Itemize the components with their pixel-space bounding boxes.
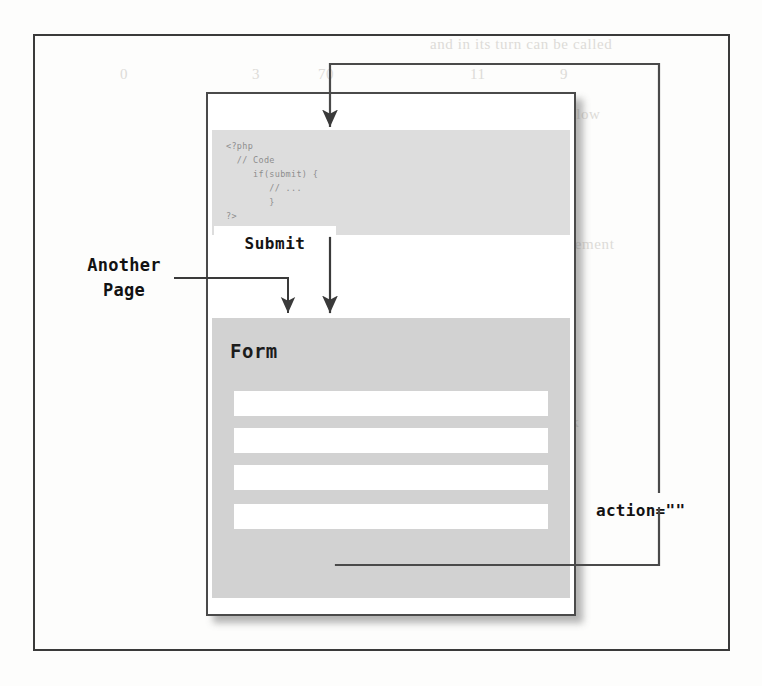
label-another-page-line-2: Page [64,278,184,303]
form-input-field-1[interactable] [234,391,548,416]
submit-button[interactable]: Submit [214,226,336,260]
php-code-text: <?php // Code if(submit) { // ... } ?> [212,130,570,223]
label-another-page: Another Page [64,253,184,303]
label-another-page-line-1: Another [64,253,184,278]
figure-scan: and in its turn can be calledwe use the … [0,0,762,686]
form-input-field-2[interactable] [234,428,548,453]
form-title: Form [230,340,278,362]
label-action-attribute: action="" [596,501,685,520]
form-panel: Form [212,318,570,598]
form-input-field-4[interactable] [234,504,548,529]
php-code-block: <?php // Code if(submit) { // ... } ?> [212,130,570,235]
form-input-field-3[interactable] [234,465,548,490]
